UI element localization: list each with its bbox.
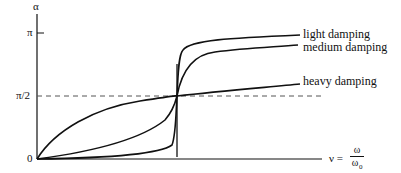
- pi-label: π: [27, 26, 33, 38]
- omega-subscript: 0: [359, 162, 363, 172]
- medium-damping-curve: [37, 45, 298, 159]
- zero-label: 0: [27, 152, 33, 164]
- omega-numerator: ω: [350, 145, 364, 155]
- heavy-damping-label: heavy damping: [303, 74, 377, 89]
- nu-label: ν =: [329, 152, 343, 164]
- medium-damping-label: medium damping: [303, 40, 387, 55]
- alpha-label: α: [33, 0, 39, 12]
- pi-half-label: π/2: [16, 89, 30, 101]
